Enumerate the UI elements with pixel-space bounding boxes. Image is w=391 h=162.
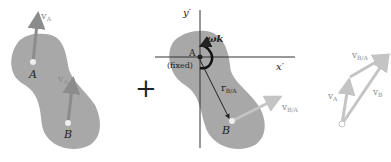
vector-v-b-label: vB xyxy=(372,87,383,98)
velocity-a-label: vA xyxy=(40,10,52,22)
rigid-body-velocity-diagram: vA A vA B + y′ x′ A (fixed) ωk rB/A B vB… xyxy=(0,0,391,162)
x-axis-label: x′ xyxy=(276,61,285,72)
point-b-label-rotation: B xyxy=(221,124,230,137)
rigid-body-shape xyxy=(11,34,100,149)
point-a-label: A xyxy=(28,68,37,81)
y-axis-label: y′ xyxy=(182,7,192,18)
vector-v-a-label: vA xyxy=(327,91,338,102)
panel-vector-sum: vA vB/A vB xyxy=(327,50,388,127)
point-b-label: B xyxy=(63,128,72,141)
point-a-label-rotation: A xyxy=(188,48,196,58)
plus-operator: + xyxy=(135,73,157,103)
vector-v-ba-label: vB/A xyxy=(351,50,369,61)
fixed-label: (fixed) xyxy=(167,61,193,70)
rigid-body-shape-rotating xyxy=(169,31,264,149)
point-a-fixed xyxy=(198,55,203,60)
point-b xyxy=(65,120,71,126)
panel-rotation: y′ x′ A (fixed) ωk rB/A B vB/A xyxy=(155,7,299,149)
omega-k-label: ωk xyxy=(207,33,224,44)
origin-point xyxy=(339,121,345,127)
point-a xyxy=(30,59,36,65)
relative-velocity-label: vB/A xyxy=(281,102,299,113)
panel-translation: vA A vA B xyxy=(11,10,100,149)
